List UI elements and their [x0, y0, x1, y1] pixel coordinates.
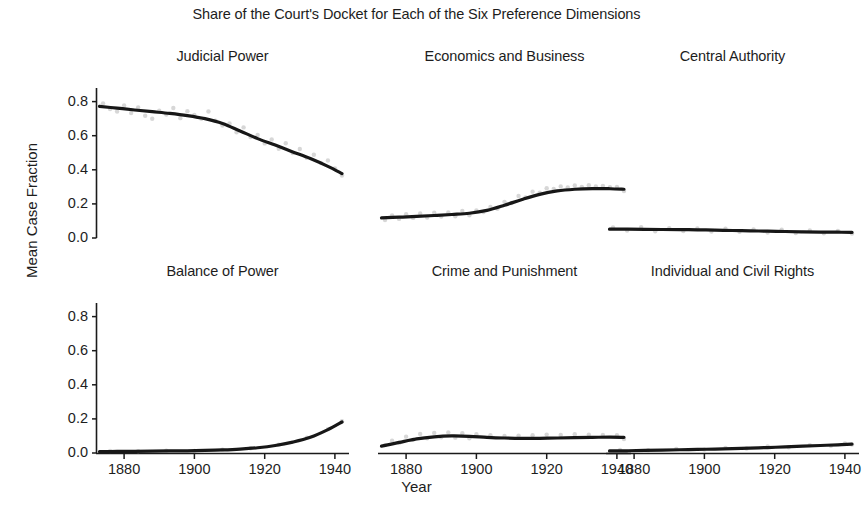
- trend-line-individual-and-civil-rights: [610, 444, 852, 451]
- scatter-points-judicial-power: [101, 101, 344, 178]
- plot-area-economics-and-business: [378, 88, 633, 248]
- trend-line-central-authority: [610, 229, 852, 232]
- y-tick-label: 0.2: [42, 195, 88, 211]
- page-title: Share of the Court's Docket for Each of …: [0, 6, 833, 22]
- scatter-point: [544, 186, 548, 190]
- scatter-point: [298, 147, 302, 151]
- trend-line-judicial-power: [100, 106, 342, 173]
- x-tick-label: 1900: [167, 461, 221, 477]
- scatter-point: [530, 189, 534, 193]
- scatter-point: [326, 158, 330, 162]
- scatter-point: [129, 111, 133, 115]
- scatter-point: [185, 109, 189, 113]
- x-tick-label: 1900: [677, 461, 731, 477]
- x-axis-label: Year: [0, 478, 833, 495]
- scatter-point: [432, 431, 436, 435]
- scatter-point: [587, 183, 591, 187]
- x-tick-label: 1940: [818, 461, 866, 477]
- panel-title-central-authority: Central Authority: [566, 48, 866, 64]
- scatter-point: [143, 114, 147, 118]
- plot-area-central-authority: [606, 88, 861, 248]
- scatter-point: [516, 194, 520, 198]
- panel-individual-and-civil-rights: [606, 303, 861, 463]
- x-tick-label: 1880: [607, 461, 661, 477]
- panel-judicial-power: [96, 88, 351, 248]
- scatter-point: [284, 141, 288, 145]
- scatter-point: [122, 103, 126, 107]
- plot-area-judicial-power: [96, 88, 351, 248]
- y-tick-label: 0.4: [42, 161, 88, 177]
- y-axis-label: Mean Case Fraction: [23, 116, 40, 306]
- scatter-point: [171, 106, 175, 110]
- y-tick-label: 0.8: [42, 308, 88, 324]
- scatter-point: [312, 153, 316, 157]
- x-tick-label: 1880: [97, 461, 151, 477]
- scatter-point: [206, 109, 210, 113]
- plot-area-balance-of-power: [96, 303, 351, 463]
- x-tick-label: 1940: [308, 461, 362, 477]
- y-tick-label: 0.6: [42, 342, 88, 358]
- trend-line-economics-and-business: [382, 189, 624, 218]
- scatter-point: [559, 184, 563, 188]
- y-tick-label: 0.0: [42, 229, 88, 245]
- plot-area-crime-and-punishment: [378, 303, 633, 463]
- scatter-point: [269, 137, 273, 141]
- y-tick-label: 0.4: [42, 376, 88, 392]
- scatter-point: [544, 432, 548, 436]
- scatter-point: [115, 109, 119, 113]
- x-tick-label: 1920: [238, 461, 292, 477]
- scatter-point: [573, 432, 577, 436]
- scatter-point: [446, 430, 450, 434]
- panel-central-authority: [606, 88, 861, 248]
- scatter-point: [418, 432, 422, 436]
- scatter-point: [241, 125, 245, 129]
- plot-area-individual-and-civil-rights: [606, 303, 861, 463]
- y-tick-label: 0.8: [42, 93, 88, 109]
- scatter-point: [573, 183, 577, 187]
- y-tick-label: 0.2: [42, 410, 88, 426]
- panel-crime-and-punishment: [378, 303, 633, 463]
- x-tick-label: 1900: [449, 461, 503, 477]
- trend-line-crime-and-punishment: [382, 436, 624, 446]
- scatter-point: [404, 434, 408, 438]
- x-tick-label: 1920: [748, 461, 802, 477]
- panel-economics-and-business: [378, 88, 633, 248]
- y-tick-label: 0.0: [42, 444, 88, 460]
- scatter-point: [178, 116, 182, 120]
- scatter-point: [101, 101, 105, 105]
- scatter-point: [150, 116, 154, 120]
- panel-title-individual-and-civil-rights: Individual and Civil Rights: [566, 263, 866, 279]
- x-tick-label: 1880: [379, 461, 433, 477]
- y-tick-label: 0.6: [42, 127, 88, 143]
- x-tick-label: 1920: [520, 461, 574, 477]
- panel-balance-of-power: [96, 303, 351, 463]
